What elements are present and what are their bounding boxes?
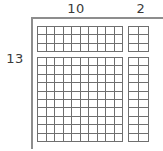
unit-square xyxy=(64,92,72,99)
unit-square xyxy=(89,108,97,115)
unit-square xyxy=(72,44,80,51)
area-model-diagram: 10 2 13 xyxy=(0,0,163,151)
unit-square xyxy=(55,44,63,51)
unit-square xyxy=(55,125,63,132)
column-label-ten: 10 xyxy=(56,2,96,15)
unit-square xyxy=(38,35,46,42)
unit-square xyxy=(115,117,123,124)
unit-square xyxy=(129,27,138,34)
unit-square xyxy=(47,100,55,107)
unit-square xyxy=(55,35,63,42)
unit-square xyxy=(139,134,148,141)
unit-square xyxy=(115,75,123,82)
unit-square xyxy=(55,83,63,90)
unit-square xyxy=(81,27,89,34)
unit-square xyxy=(89,83,97,90)
unit-square xyxy=(47,75,55,82)
unit-square xyxy=(129,35,138,42)
unit-square xyxy=(106,134,114,141)
unit-square xyxy=(129,125,138,132)
unit-square xyxy=(115,35,123,42)
unit-square xyxy=(38,108,46,115)
unit-square xyxy=(115,58,123,65)
unit-square xyxy=(47,92,55,99)
unit-square xyxy=(106,108,114,115)
unit-square xyxy=(115,100,123,107)
unit-square xyxy=(139,125,148,132)
axis-line-vertical xyxy=(31,17,33,149)
unit-square xyxy=(38,117,46,124)
unit-square xyxy=(129,134,138,141)
row-label-thirteen: 13 xyxy=(2,52,28,65)
unit-square xyxy=(129,58,138,65)
unit-square xyxy=(89,117,97,124)
unit-square xyxy=(139,44,148,51)
unit-square xyxy=(139,92,148,99)
unit-square xyxy=(64,83,72,90)
unit-square xyxy=(64,75,72,82)
unit-square xyxy=(38,134,46,141)
unit-square xyxy=(139,35,148,42)
unit-square xyxy=(106,100,114,107)
unit-square xyxy=(55,92,63,99)
unit-square xyxy=(81,58,89,65)
unit-square xyxy=(129,44,138,51)
unit-square xyxy=(98,44,106,51)
unit-square xyxy=(72,27,80,34)
unit-square xyxy=(81,117,89,124)
unit-square xyxy=(129,66,138,73)
unit-square xyxy=(38,58,46,65)
grid-block-bottom-right xyxy=(128,57,149,142)
unit-square xyxy=(55,117,63,124)
unit-square xyxy=(72,83,80,90)
unit-square xyxy=(106,44,114,51)
unit-square xyxy=(98,83,106,90)
unit-square xyxy=(98,75,106,82)
unit-square xyxy=(81,134,89,141)
unit-square xyxy=(38,83,46,90)
unit-square xyxy=(47,108,55,115)
unit-square xyxy=(81,92,89,99)
unit-square xyxy=(55,66,63,73)
unit-square xyxy=(64,134,72,141)
unit-square xyxy=(55,100,63,107)
unit-square xyxy=(55,75,63,82)
grid-block-top-left xyxy=(37,26,123,52)
unit-square xyxy=(64,35,72,42)
unit-square xyxy=(115,66,123,73)
unit-square xyxy=(106,58,114,65)
unit-square xyxy=(89,92,97,99)
unit-square xyxy=(55,58,63,65)
unit-square xyxy=(106,35,114,42)
grid-block-top-right xyxy=(128,26,149,52)
unit-square xyxy=(72,108,80,115)
unit-square xyxy=(64,108,72,115)
unit-square xyxy=(81,83,89,90)
unit-square xyxy=(115,44,123,51)
unit-square xyxy=(72,58,80,65)
unit-square xyxy=(98,58,106,65)
unit-square xyxy=(64,66,72,73)
unit-square xyxy=(72,35,80,42)
unit-square xyxy=(47,134,55,141)
unit-square xyxy=(38,125,46,132)
unit-square xyxy=(47,35,55,42)
unit-square xyxy=(106,92,114,99)
unit-square xyxy=(64,100,72,107)
unit-square xyxy=(115,92,123,99)
unit-square xyxy=(89,44,97,51)
unit-square xyxy=(139,66,148,73)
unit-square xyxy=(72,117,80,124)
unit-square xyxy=(139,117,148,124)
unit-square xyxy=(81,66,89,73)
unit-square xyxy=(139,100,148,107)
unit-square xyxy=(47,83,55,90)
unit-square xyxy=(115,125,123,132)
unit-square xyxy=(38,92,46,99)
unit-square xyxy=(64,125,72,132)
grid-block-bottom-left xyxy=(37,57,123,142)
unit-square xyxy=(72,100,80,107)
unit-square xyxy=(89,66,97,73)
unit-square xyxy=(98,117,106,124)
unit-square xyxy=(72,66,80,73)
